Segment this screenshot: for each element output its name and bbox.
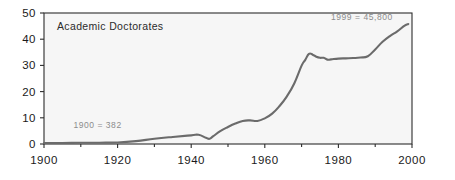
x-tick-label: 1960 <box>251 154 279 166</box>
y-tick-label: 30 <box>22 59 36 71</box>
y-tick-label: 10 <box>22 112 36 124</box>
x-tick-label: 2000 <box>398 154 426 166</box>
annotation-start-value: 1900 = 382 <box>73 120 121 130</box>
x-tick-label: 1920 <box>104 154 132 166</box>
y-tick-label: 50 <box>22 7 36 19</box>
x-axis-tick-marks <box>44 144 412 148</box>
y-tick-label: 40 <box>22 33 36 45</box>
academic-doctorates-line-chart: 01020304050 190019201940196019802000 Aca… <box>0 0 455 180</box>
x-axis-tick-labels: 190019201940196019802000 <box>30 154 426 166</box>
y-tick-label: 0 <box>29 138 36 150</box>
x-tick-label: 1980 <box>325 154 353 166</box>
y-axis-tick-labels: 01020304050 <box>22 7 36 150</box>
y-tick-label: 20 <box>22 86 36 98</box>
chart-title: Academic Doctorates <box>57 20 163 32</box>
y-axis-tick-marks <box>40 13 44 144</box>
x-tick-label: 1940 <box>177 154 205 166</box>
annotation-end-value: 1999 = 45,800 <box>331 12 393 22</box>
x-tick-label: 1900 <box>30 154 58 166</box>
chart-container: 01020304050 190019201940196019802000 Aca… <box>0 0 455 180</box>
